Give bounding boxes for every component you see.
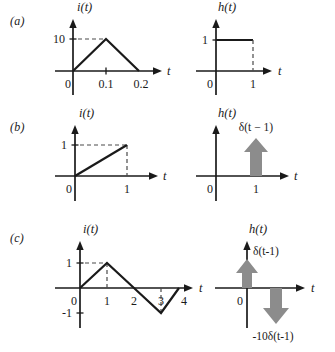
signal-curve bbox=[73, 39, 139, 71]
xtick-label-0: 0 bbox=[237, 294, 243, 308]
impulse-arrow-up bbox=[244, 138, 268, 176]
y-axis-arrowhead bbox=[71, 125, 78, 134]
delta-up-annotation: δ(t-1) bbox=[253, 245, 279, 258]
xtick-label-0p2: 0.2 bbox=[134, 77, 149, 91]
y-axis-label: i(t) bbox=[77, 0, 92, 14]
xtick-label-1: 1 bbox=[250, 77, 256, 91]
y-axis-label: i(t) bbox=[83, 222, 98, 236]
x-axis-label: t bbox=[167, 64, 171, 78]
x-axis-label: t bbox=[294, 169, 298, 183]
xtick-label-0: 0 bbox=[207, 182, 213, 196]
x-axis-label: t bbox=[199, 281, 203, 295]
chart-b-input: i(t) t 0 1 1 bbox=[55, 118, 175, 204]
xtick-label-0: 0 bbox=[207, 77, 213, 91]
xtick-label-4: 4 bbox=[181, 294, 187, 308]
ytick-label-1: 1 bbox=[202, 33, 208, 47]
xtick-label-1: 1 bbox=[104, 294, 110, 308]
xtick-label-0: 0 bbox=[66, 182, 72, 196]
chart-a-input: i(t) t 0 0.1 0.2 10 bbox=[55, 12, 175, 98]
y-axis-arrowhead bbox=[212, 125, 219, 134]
row-label-b: (b) bbox=[10, 120, 25, 135]
y-axis-arrowhead bbox=[76, 241, 83, 250]
chart-a-impulse-response: h(t) t 0 1 1 bbox=[196, 12, 306, 98]
chart-c-input: i(t) t 0 1 2 3 4 1 -1 bbox=[55, 228, 215, 346]
x-axis-label: t bbox=[278, 64, 282, 78]
ytick-label-1: 1 bbox=[66, 256, 72, 270]
x-axis-label: t bbox=[163, 169, 167, 183]
figure-root: (a) i(t) t 0 0.1 0.2 10 h(t) bbox=[0, 0, 335, 352]
xtick-label-2: 2 bbox=[131, 294, 137, 308]
chart-c-impulse-response: δ(t-1) -10δ(t-1) h(t) t 0 bbox=[215, 228, 335, 346]
y-axis-label: h(t) bbox=[218, 106, 236, 120]
xtick-label-3: 3 bbox=[158, 294, 164, 308]
impulse-arrow-up bbox=[236, 259, 258, 288]
y-axis-label: h(t) bbox=[218, 0, 236, 14]
x-axis-arrowhead bbox=[280, 172, 289, 179]
row-label-c: (c) bbox=[10, 231, 24, 246]
ytick-label-minus1: -1 bbox=[62, 306, 72, 320]
signal-curve bbox=[75, 145, 127, 176]
impulse-arrow-down bbox=[263, 288, 289, 324]
y-axis-arrowhead bbox=[69, 19, 76, 28]
x-axis-arrowhead bbox=[296, 284, 305, 291]
y-axis-label: i(t) bbox=[79, 106, 94, 120]
y-axis-arrowhead bbox=[243, 241, 250, 250]
delta-down-annotation: -10δ(t-1) bbox=[252, 330, 293, 343]
xtick-label-0p1: 0.1 bbox=[99, 77, 114, 91]
xtick-label-0: 0 bbox=[65, 77, 71, 91]
row-label-a: (a) bbox=[10, 14, 25, 29]
xtick-label-1: 1 bbox=[253, 182, 259, 196]
y-axis-label: h(t) bbox=[249, 222, 267, 236]
delta-annotation: δ(t − 1) bbox=[239, 121, 273, 134]
x-axis-arrowhead bbox=[153, 67, 162, 74]
y-axis-arrowhead bbox=[212, 19, 219, 28]
ytick-label-10: 10 bbox=[53, 32, 65, 46]
x-axis-arrowhead bbox=[149, 172, 158, 179]
chart-b-impulse-response: δ(t − 1) h(t) t 0 1 bbox=[196, 118, 316, 204]
ytick-label-1: 1 bbox=[61, 138, 67, 152]
x-axis-arrowhead bbox=[263, 67, 272, 74]
x-axis-arrowhead bbox=[184, 284, 193, 291]
x-axis-label: t bbox=[311, 281, 315, 295]
xtick-label-1: 1 bbox=[124, 182, 130, 196]
